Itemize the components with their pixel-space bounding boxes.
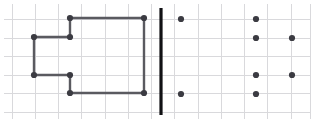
scatter-dot <box>253 16 259 22</box>
shape-node <box>141 90 147 96</box>
scatter-dot <box>178 91 184 97</box>
shape-node <box>67 15 73 21</box>
shape-node <box>31 34 37 40</box>
shape-node <box>67 72 73 78</box>
scatter-dot <box>253 72 259 78</box>
grid-horizontal-lines <box>4 19 310 112</box>
scatter-dot <box>253 35 259 41</box>
dot-grid-diagram <box>0 0 314 125</box>
shape-node <box>141 15 147 21</box>
shape-node <box>67 90 73 96</box>
scatter-dot <box>253 91 259 97</box>
shape-node <box>67 34 73 40</box>
scatter-dot <box>289 72 295 78</box>
figure-canvas <box>0 0 314 125</box>
shape-node <box>31 72 37 78</box>
scatter-dot <box>178 16 184 22</box>
scatter-dot <box>289 35 295 41</box>
